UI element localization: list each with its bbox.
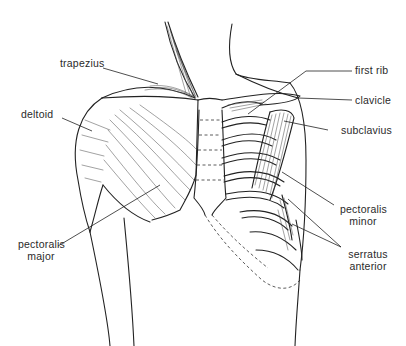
label-clavicle: clavicle <box>355 94 391 106</box>
sternum <box>194 99 226 216</box>
ribs <box>205 102 300 288</box>
label-subclavius: subclavius <box>341 124 392 136</box>
label-first-rib: first rib <box>355 64 388 76</box>
anatomy-diagram: trapezius deltoid pectoralis major first… <box>0 0 406 346</box>
leader-lines <box>58 68 352 247</box>
label-serratus-anterior-line2: anterior <box>345 260 391 272</box>
label-pectoralis-minor-line1: pectoralis <box>340 203 386 215</box>
label-pectoralis-major-line2: major <box>18 250 64 262</box>
label-pectoralis-major-line1: pectoralis <box>18 238 64 250</box>
neck-trapezius <box>165 22 290 98</box>
left-shoulder <box>75 85 198 346</box>
label-deltoid: deltoid <box>21 108 53 120</box>
label-serratus-anterior-line1: serratus <box>345 248 391 260</box>
label-pectoralis-minor: pectoralis minor <box>340 203 386 227</box>
chest-muscle-illustration <box>0 0 406 346</box>
label-serratus-anterior: serratus anterior <box>345 248 391 272</box>
label-pectoralis-major: pectoralis major <box>18 238 64 262</box>
label-pectoralis-minor-line2: minor <box>340 215 386 227</box>
label-trapezius: trapezius <box>60 57 104 69</box>
right-shoulder <box>222 74 306 346</box>
